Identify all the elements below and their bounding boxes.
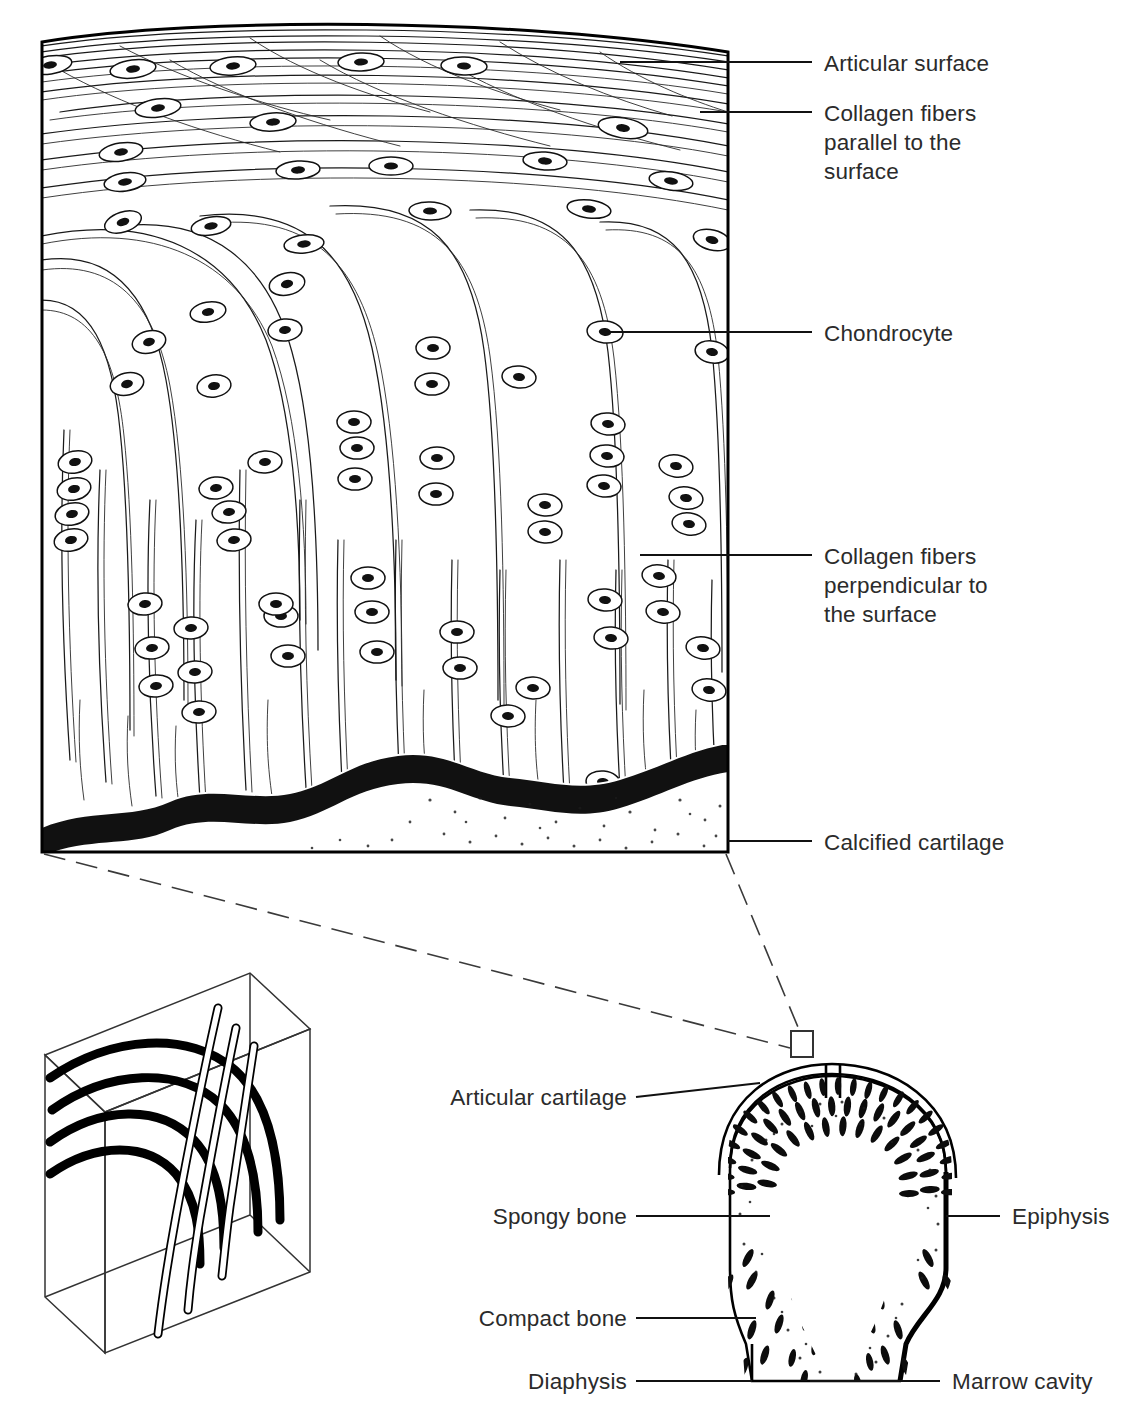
lacuna [337,411,371,433]
label-diaphysis: Diaphysis [528,1369,627,1394]
label-collagen-parallel-line1: Collagen fibers [824,101,976,126]
label-epiphysis: Epiphysis [1012,1204,1110,1229]
label-collagen-parallel-line3: surface [824,159,899,184]
label-collagen-perpendicular-line2: perpendicular to [824,573,988,598]
lacuna [440,621,474,643]
lacuna [443,657,477,679]
label-articular-cartilage: Articular cartilage [450,1085,627,1110]
figure-root: Articular surface Collagen fibers parall… [0,0,1138,1421]
lacuna [369,157,413,175]
label-collagen-perpendicular-line1: Collagen fibers [824,544,976,569]
label-marrow-cavity: Marrow cavity [952,1369,1093,1394]
label-collagen-perpendicular-line3: the surface [824,602,937,627]
lacuna [271,645,305,667]
label-articular-surface: Articular surface [824,51,989,76]
lacuna [416,337,450,359]
anatomical-figure: Articular surface Collagen fibers parall… [0,0,1138,1421]
lacuna [351,567,385,589]
lacuna [355,601,389,623]
callout-sample-box [791,1031,813,1057]
label-compact-bone: Compact bone [479,1306,627,1331]
cartilage-interior [27,18,733,856]
label-spongy-bone: Spongy bone [493,1204,627,1229]
lacuna [360,641,394,663]
articular-cartilage-block [27,18,733,856]
label-calcified-cartilage: Calcified cartilage [824,830,1004,855]
lacuna [338,468,372,490]
lacuna [420,447,454,469]
lacuna [259,593,293,615]
lacuna [415,373,449,395]
lacuna [419,483,453,505]
lacuna [340,437,374,459]
label-chondrocyte: Chondrocyte [824,321,953,346]
label-collagen-parallel-line2: parallel to the [824,130,961,155]
